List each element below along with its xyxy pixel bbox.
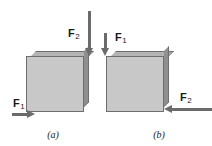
label-f1-a-sub: 1 [20,102,25,111]
caption-a: (a) [0,129,106,140]
label-f2-b-sub: 2 [187,96,192,105]
label-f1-a-base: F [13,97,20,109]
arrow-f1-shaft-b [104,33,107,49]
label-f2-a-base: F [68,27,75,39]
block-a-front-face [26,56,84,112]
block-b-side-face [164,46,169,107]
label-f1-a: F1 [13,98,25,111]
arrow-f2-head-b [164,105,172,113]
caption-b: (b) [106,129,212,140]
block-b-front-face [106,56,164,112]
panel-a: F2 F1 (a) [0,0,106,146]
arrow-f2-shaft-a [88,11,91,49]
label-f1-b-sub: 1 [122,36,127,45]
label-f2-b: F2 [180,92,192,105]
arrow-f2-shaft-b [171,108,212,111]
label-f2-a-sub: 2 [75,32,80,41]
arrow-f2-head-a [85,48,93,56]
label-f2-b-base: F [180,91,187,103]
label-f1-b: F1 [115,32,127,45]
block-b [106,51,170,113]
arrow-f1-head-b [101,48,109,56]
arrow-f1-shaft-a [12,113,28,116]
label-f1-b-base: F [115,31,122,43]
force-diagram-figure: F2 F1 (a) F1 [0,0,212,146]
label-f2-a: F2 [68,28,80,41]
arrow-f1-head-a [27,110,35,118]
panel-b: F1 F2 (b) [106,0,212,146]
block-a [26,51,90,113]
